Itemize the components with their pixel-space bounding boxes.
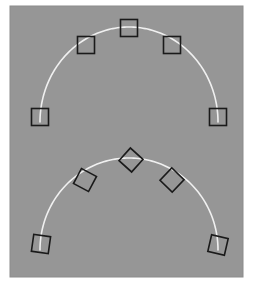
plot-area — [0, 0, 255, 288]
figure-canvas — [0, 0, 255, 288]
